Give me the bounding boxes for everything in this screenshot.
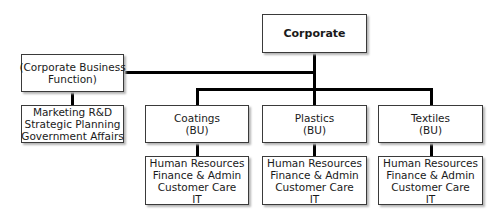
- bu-node-textiles: Textiles (BU): [378, 105, 483, 143]
- bu-name: Plastics: [295, 112, 334, 124]
- function-item: Human Resources: [150, 157, 245, 169]
- function-item: Finance & Admin: [386, 169, 475, 181]
- bu-functions-coatings: Human Resources Finance & Admin Customer…: [145, 156, 249, 205]
- bu-functions-plastics: Human Resources Finance & Admin Customer…: [262, 156, 367, 205]
- bu-name: Coatings: [174, 112, 220, 124]
- function-item: Customer Care: [275, 181, 354, 193]
- function-item: Finance & Admin: [270, 169, 359, 181]
- function-item: IT: [310, 193, 320, 205]
- connector-corporate-down: [313, 53, 316, 107]
- corporate-functions-node: Marketing R&D Strategic Planning Governm…: [21, 105, 124, 143]
- connector-coatings: [196, 88, 199, 106]
- function-item: Human Resources: [267, 157, 362, 169]
- corporate-node: Corporate: [262, 14, 367, 53]
- connector-textiles: [430, 88, 433, 106]
- function-item: Government Affairs: [21, 130, 123, 142]
- corporate-business-function-node: (Corporate Business Function): [21, 54, 124, 92]
- bu-tag: (BU): [419, 124, 442, 136]
- connector-bu-bar: [196, 88, 433, 91]
- bu-node-coatings: Coatings (BU): [145, 105, 249, 143]
- connector-textiles-functions: [430, 143, 433, 156]
- function-item: IT: [192, 193, 202, 205]
- bu-functions-textiles: Human Resources Finance & Admin Customer…: [378, 156, 483, 205]
- bu-node-plastics: Plastics (BU): [262, 105, 367, 143]
- function-item: Customer Care: [391, 181, 470, 193]
- function-item: Finance & Admin: [153, 169, 242, 181]
- bu-tag: (BU): [185, 124, 208, 136]
- bu-tag: (BU): [303, 124, 326, 136]
- function-item: Customer Care: [158, 181, 237, 193]
- function-item: IT: [426, 193, 436, 205]
- function-item: Human Resources: [383, 157, 478, 169]
- bu-name: Textiles: [411, 112, 450, 124]
- function-item: Marketing R&D: [33, 106, 112, 118]
- connector-coatings-functions: [196, 143, 199, 156]
- connector-cbf-functions: [71, 92, 74, 106]
- cbf-label-line-2: Function): [48, 73, 97, 85]
- corporate-label: Corporate: [283, 28, 345, 40]
- cbf-label-line-1: (Corporate Business: [19, 61, 125, 73]
- connector-corporate-function: [124, 71, 315, 74]
- function-item: Strategic Planning: [24, 118, 120, 130]
- connector-plastics-functions: [313, 143, 316, 156]
